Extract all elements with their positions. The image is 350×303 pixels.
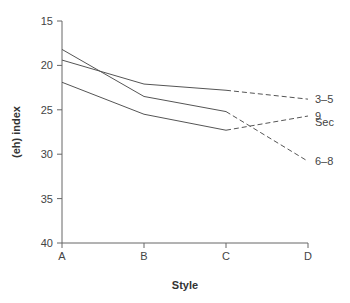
x-ticks: ABCD <box>58 243 312 262</box>
y-axis-title: (eh) index <box>10 105 22 158</box>
chart-canvas: 152025303540 ABCD 3–596–8 Style (eh) ind… <box>0 0 350 303</box>
y-tick-label: 25 <box>41 104 53 116</box>
x-tick-label: C <box>222 250 230 262</box>
x-axis-title: Style <box>172 279 198 291</box>
legend-title: Sec <box>315 116 334 128</box>
y-tick-label: 40 <box>41 237 53 249</box>
x-tick-label: A <box>58 250 66 262</box>
line-chart: 152025303540 ABCD 3–596–8 Style (eh) ind… <box>0 0 350 303</box>
y-tick-label: 35 <box>41 193 53 205</box>
y-tick-label: 20 <box>41 59 53 71</box>
y-tick-label: 15 <box>41 15 53 27</box>
x-tick-label: D <box>304 250 312 262</box>
y-tick-label: 30 <box>41 148 53 160</box>
series-label: 6–8 <box>315 155 333 167</box>
series-lines <box>62 49 308 161</box>
series-labels: 3–596–8 <box>315 93 333 167</box>
x-tick-label: B <box>140 250 147 262</box>
series-line-solid <box>62 60 226 90</box>
y-ticks: 152025303540 <box>41 15 62 249</box>
series-line-dashed <box>226 90 308 99</box>
series-line-solid <box>62 49 226 111</box>
series-line-dashed <box>226 112 308 162</box>
series-label: 3–5 <box>315 93 333 105</box>
series-line-dashed <box>226 116 308 130</box>
series-line-solid <box>62 82 226 130</box>
axes <box>62 21 308 243</box>
